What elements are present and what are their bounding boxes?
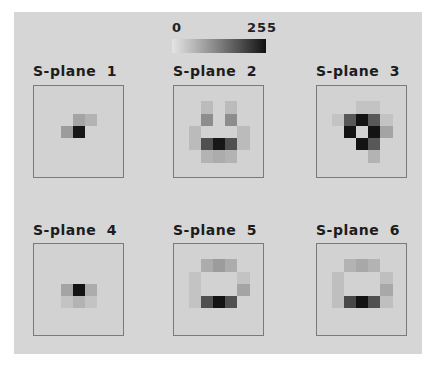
- plane-cell: [201, 89, 213, 101]
- plane-cell: [110, 138, 122, 150]
- plane-5-frame: [173, 243, 264, 336]
- plane-cell: [177, 150, 189, 162]
- plane-cell: [380, 247, 392, 259]
- plane-cell: [237, 308, 249, 320]
- plane-cell: [344, 272, 356, 284]
- plane-cell: [97, 272, 109, 284]
- plane-cell: [225, 101, 237, 113]
- plane-cell: [97, 296, 109, 308]
- plane-cell: [97, 163, 109, 175]
- plane-cell: [73, 308, 85, 320]
- plane-cell: [61, 296, 73, 308]
- plane-4-grid: [37, 247, 122, 333]
- plane-cell: [177, 272, 189, 284]
- plane-cell: [320, 89, 332, 101]
- plane-cell: [250, 296, 262, 308]
- plane-cell: [97, 89, 109, 101]
- plane-cell: [368, 272, 380, 284]
- plane-cell: [189, 259, 201, 271]
- plane-cell: [85, 259, 97, 271]
- plane-cell: [189, 284, 201, 296]
- plane-cell: [61, 247, 73, 259]
- plane-cell: [189, 247, 201, 259]
- plane-cell: [73, 114, 85, 126]
- plane-cell: [320, 126, 332, 138]
- plane-cell: [368, 284, 380, 296]
- plane-cell: [320, 296, 332, 308]
- plane-cell: [61, 101, 73, 113]
- plane-cell: [344, 89, 356, 101]
- plane-cell: [97, 284, 109, 296]
- plane-cell: [201, 150, 213, 162]
- plane-cell: [393, 284, 405, 296]
- plane-cell: [110, 296, 122, 308]
- plane-cell: [110, 163, 122, 175]
- plane-cell: [73, 247, 85, 259]
- plane-cell: [177, 321, 189, 333]
- plane-cell: [97, 308, 109, 320]
- plane-cell: [225, 272, 237, 284]
- plane-cell: [332, 89, 344, 101]
- plane-cell: [380, 138, 392, 150]
- plane-cell: [332, 284, 344, 296]
- plane-cell: [344, 284, 356, 296]
- plane-cell: [97, 321, 109, 333]
- plane-cell: [37, 308, 49, 320]
- plane-cell: [189, 163, 201, 175]
- plane-cell: [393, 126, 405, 138]
- plane-cell: [332, 308, 344, 320]
- plane-cell: [97, 114, 109, 126]
- plane-cell: [49, 272, 61, 284]
- plane-cell: [344, 126, 356, 138]
- plane-cell: [85, 114, 97, 126]
- plane-cell: [189, 89, 201, 101]
- plane-cell: [237, 126, 249, 138]
- plane-cell: [213, 321, 225, 333]
- plane-cell: [177, 114, 189, 126]
- plane-cell: [356, 272, 368, 284]
- plane-cell: [332, 138, 344, 150]
- plane-cell: [320, 163, 332, 175]
- plane-cell: [37, 296, 49, 308]
- plane-cell: [73, 296, 85, 308]
- plane-4-frame: [33, 243, 124, 336]
- plane-cell: [250, 163, 262, 175]
- plane-cell: [250, 114, 262, 126]
- plane-cell: [97, 126, 109, 138]
- plane-cell: [356, 126, 368, 138]
- plane-cell: [344, 138, 356, 150]
- plane-cell: [61, 163, 73, 175]
- plane-cell: [320, 284, 332, 296]
- plane-cell: [110, 321, 122, 333]
- plane-cell: [37, 114, 49, 126]
- plane-2-grid: [177, 89, 262, 175]
- plane-cell: [110, 284, 122, 296]
- plane-cell: [73, 89, 85, 101]
- plane-2-frame: [173, 85, 264, 178]
- plane-cell: [368, 126, 380, 138]
- plane-cell: [393, 163, 405, 175]
- plane-cell: [37, 150, 49, 162]
- plane-cell: [250, 272, 262, 284]
- plane-cell: [73, 138, 85, 150]
- plane-cell: [201, 308, 213, 320]
- plane-cell: [177, 284, 189, 296]
- plane-cell: [110, 259, 122, 271]
- plane-cell: [332, 101, 344, 113]
- plane-1-title: S-plane 1: [33, 63, 117, 79]
- plane-cell: [201, 138, 213, 150]
- plane-cell: [393, 89, 405, 101]
- plane-cell: [85, 150, 97, 162]
- plane-cell: [368, 163, 380, 175]
- plane-cell: [49, 150, 61, 162]
- plane-cell: [250, 126, 262, 138]
- plane-cell: [237, 89, 249, 101]
- plane-cell: [37, 247, 49, 259]
- plane-cell: [332, 114, 344, 126]
- plane-6-frame: [316, 243, 407, 336]
- plane-cell: [320, 259, 332, 271]
- plane-cell: [368, 150, 380, 162]
- plane-cell: [49, 101, 61, 113]
- plane-cell: [85, 126, 97, 138]
- plane-cell: [110, 150, 122, 162]
